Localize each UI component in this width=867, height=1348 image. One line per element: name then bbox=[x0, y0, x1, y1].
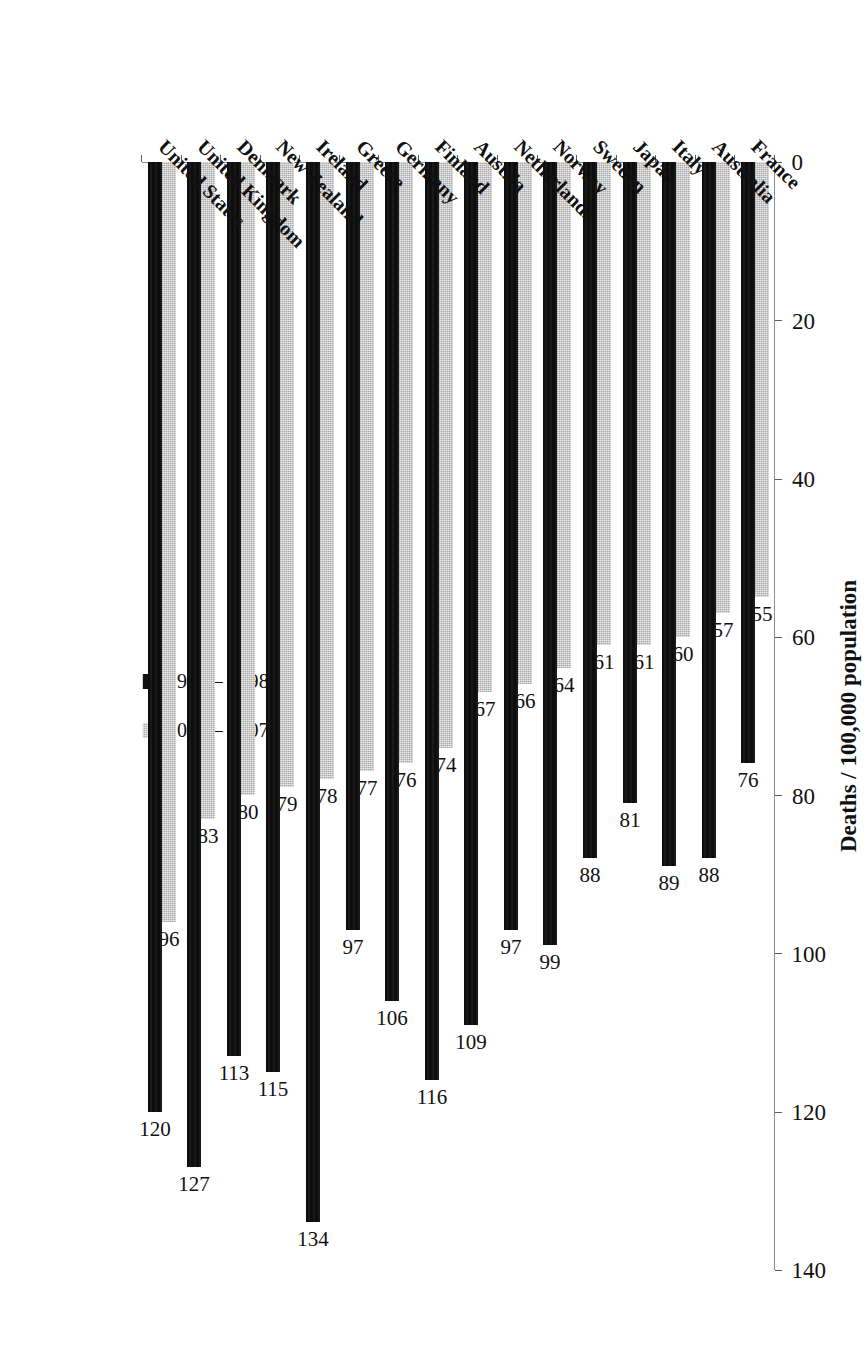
value-axis-tick: 120 bbox=[775, 1112, 782, 1113]
bar-series-a[interactable]: 115 bbox=[266, 162, 280, 1072]
value-axis-tick-label: 140 bbox=[792, 1259, 827, 1282]
bar-series-b[interactable]: 76 bbox=[399, 162, 413, 763]
value-axis-tick-label: 60 bbox=[792, 626, 815, 649]
bar-wrapper: 116 bbox=[425, 162, 439, 1270]
bar-series-a[interactable]: 99 bbox=[543, 162, 557, 946]
bar-wrapper: 55 bbox=[755, 162, 769, 1270]
bar-group: 6181Japan bbox=[617, 162, 657, 1270]
bar-wrapper: 79 bbox=[280, 162, 294, 1270]
value-axis-tick-label: 120 bbox=[792, 1101, 827, 1124]
bar-wrapper: 78 bbox=[320, 162, 334, 1270]
bar-series-a[interactable]: 120 bbox=[148, 162, 162, 1112]
bar-wrapper: 96 bbox=[162, 162, 176, 1270]
bar-group: 80113Denmark bbox=[221, 162, 261, 1270]
value-axis-tick-label: 40 bbox=[792, 468, 815, 491]
bar-wrapper: 77 bbox=[360, 162, 374, 1270]
bar-wrapper: 88 bbox=[583, 162, 597, 1270]
bar-series-b[interactable]: 83 bbox=[201, 162, 215, 819]
bar-group: 7797Greece bbox=[340, 162, 380, 1270]
bar-series-a[interactable]: 109 bbox=[464, 162, 478, 1025]
bar-value-label: 88 bbox=[698, 865, 719, 886]
bar-series-a[interactable]: 81 bbox=[623, 162, 637, 803]
bar-value-label: 116 bbox=[416, 1087, 447, 1108]
bar-series-a[interactable]: 89 bbox=[662, 162, 676, 866]
bar-groups: 5576France5788Australia6089Italy6181Japa… bbox=[142, 162, 775, 1270]
bar-series-b[interactable]: 74 bbox=[439, 162, 453, 748]
bar-series-a[interactable]: 116 bbox=[425, 162, 439, 1080]
bar-wrapper: 97 bbox=[346, 162, 360, 1270]
value-axis-tick: 20 bbox=[775, 320, 782, 321]
bar-series-a[interactable]: 134 bbox=[306, 162, 320, 1223]
bar-series-a[interactable]: 76 bbox=[741, 162, 755, 763]
bar-wrapper: 76 bbox=[741, 162, 755, 1270]
bar-wrapper: 109 bbox=[464, 162, 478, 1270]
bar-value-label: 76 bbox=[738, 770, 759, 791]
bar-series-a[interactable]: 97 bbox=[504, 162, 518, 930]
bar-value-label: 88 bbox=[579, 865, 600, 886]
bar-wrapper: 115 bbox=[266, 162, 280, 1270]
grouped-bar-chart: 1997 – 19982006 – 2007 02040608010012014… bbox=[0, 0, 867, 1348]
bar-group: 5576France bbox=[735, 162, 775, 1270]
bar-series-b[interactable]: 80 bbox=[241, 162, 255, 795]
bar-group: 78134Ireland bbox=[300, 162, 340, 1270]
bar-group: 5788Australia bbox=[696, 162, 736, 1270]
bar-series-b[interactable]: 55 bbox=[755, 162, 769, 597]
bar-wrapper: 120 bbox=[148, 162, 162, 1270]
bar-wrapper: 66 bbox=[518, 162, 532, 1270]
bar-series-b[interactable]: 78 bbox=[320, 162, 334, 779]
bar-wrapper: 99 bbox=[543, 162, 557, 1270]
bar-series-b[interactable]: 77 bbox=[360, 162, 374, 771]
bar-value-label: 127 bbox=[179, 1174, 211, 1195]
bar-group: 76106Germany bbox=[379, 162, 419, 1270]
bar-wrapper: 97 bbox=[504, 162, 518, 1270]
value-axis-tick-label: 100 bbox=[792, 942, 827, 965]
value-axis-tick: 80 bbox=[775, 795, 782, 796]
bar-value-label: 99 bbox=[540, 953, 561, 974]
value-axis-title: Deaths / 100,000 population bbox=[836, 580, 862, 852]
bar-value-label: 97 bbox=[342, 937, 363, 958]
bar-series-a[interactable]: 97 bbox=[346, 162, 360, 930]
bar-value-label: 106 bbox=[376, 1008, 408, 1029]
value-axis-tick: 100 bbox=[775, 953, 782, 954]
bar-series-b[interactable]: 66 bbox=[518, 162, 532, 684]
value-axis-tick-label: 80 bbox=[792, 784, 815, 807]
bar-group: 74116Finland bbox=[419, 162, 459, 1270]
bar-group: 6089Italy bbox=[656, 162, 696, 1270]
bar-series-b[interactable]: 79 bbox=[280, 162, 294, 787]
bar-group: 6188Sweden bbox=[577, 162, 617, 1270]
bar-value-label: 89 bbox=[659, 873, 680, 894]
bar-group: 6697Netherlands bbox=[498, 162, 538, 1270]
bar-series-b[interactable]: 61 bbox=[597, 162, 611, 645]
bar-group: 67109Austria bbox=[459, 162, 499, 1270]
bar-wrapper: 134 bbox=[306, 162, 320, 1270]
bar-value-label: 120 bbox=[139, 1119, 171, 1140]
bar-series-a[interactable]: 106 bbox=[385, 162, 399, 1001]
bar-wrapper: 81 bbox=[623, 162, 637, 1270]
bar-series-b[interactable]: 64 bbox=[557, 162, 571, 669]
bar-wrapper: 64 bbox=[557, 162, 571, 1270]
bar-group: 96120United States bbox=[142, 162, 182, 1270]
value-axis-tick: 60 bbox=[775, 637, 782, 638]
bar-group: 83127United Kingdom bbox=[182, 162, 222, 1270]
bar-wrapper: 67 bbox=[478, 162, 492, 1270]
bar-group: 79115New Zealand bbox=[261, 162, 301, 1270]
bar-value-label: 109 bbox=[456, 1032, 488, 1053]
bar-series-a[interactable]: 88 bbox=[702, 162, 716, 858]
value-axis-tick: 140 bbox=[775, 1270, 782, 1271]
bar-series-b[interactable]: 67 bbox=[478, 162, 492, 692]
bar-wrapper: 89 bbox=[662, 162, 676, 1270]
bar-series-b[interactable]: 61 bbox=[637, 162, 651, 645]
bar-series-a[interactable]: 113 bbox=[227, 162, 241, 1056]
bar-series-b[interactable]: 60 bbox=[676, 162, 690, 637]
bar-wrapper: 61 bbox=[637, 162, 651, 1270]
bar-series-a[interactable]: 127 bbox=[187, 162, 201, 1167]
bar-series-a[interactable]: 88 bbox=[583, 162, 597, 858]
bar-wrapper: 57 bbox=[716, 162, 730, 1270]
bar-wrapper: 127 bbox=[187, 162, 201, 1270]
value-axis-tick: 40 bbox=[775, 479, 782, 480]
bar-series-b[interactable]: 96 bbox=[162, 162, 176, 922]
bar-value-label: 113 bbox=[219, 1063, 250, 1084]
bar-wrapper: 83 bbox=[201, 162, 215, 1270]
bar-value-label: 97 bbox=[500, 937, 521, 958]
bar-series-b[interactable]: 57 bbox=[716, 162, 730, 613]
